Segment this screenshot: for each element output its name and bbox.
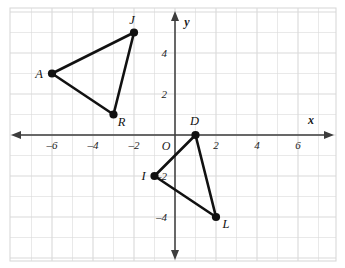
- vertex-point: [212, 213, 220, 221]
- y-tick-label: 2: [162, 88, 168, 100]
- x-tick-label: 6: [295, 139, 301, 151]
- vertex-label: D: [189, 114, 199, 128]
- origin-label: O: [162, 139, 171, 153]
- x-tick-label: –2: [128, 139, 141, 151]
- vertex-point: [150, 172, 158, 180]
- x-tick-label: –4: [87, 139, 100, 151]
- vertex-label: L: [222, 217, 230, 231]
- y-tick-label: 4: [162, 47, 168, 59]
- coordinate-plane-svg: –6–4–224642–2–4 AJRDIL x y O: [0, 0, 345, 268]
- vertex-label: I: [140, 169, 146, 183]
- vertex-point: [130, 28, 138, 36]
- x-tick-label: –6: [46, 139, 59, 151]
- y-axis-label: y: [182, 15, 190, 29]
- x-tick-label: 4: [254, 139, 260, 151]
- x-tick-label: 2: [213, 139, 219, 151]
- vertex-point: [109, 110, 117, 118]
- vertex-label: R: [117, 115, 126, 129]
- y-tick-label: –4: [155, 211, 168, 223]
- coordinate-plane-figure: –6–4–224642–2–4 AJRDIL x y O: [0, 0, 345, 268]
- x-axis-label: x: [307, 113, 314, 127]
- vertex-point: [48, 69, 56, 77]
- vertex-point: [191, 131, 199, 139]
- vertex-label: A: [34, 67, 43, 81]
